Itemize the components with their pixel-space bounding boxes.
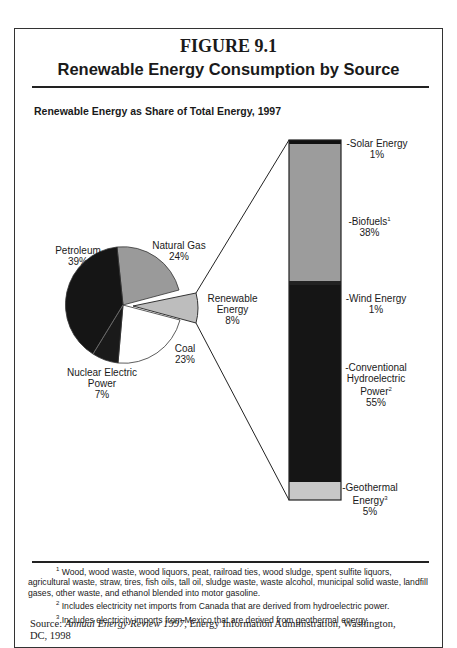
label-hydro: -ConventionalHydroelectricPower255% <box>342 362 410 408</box>
bar-hydro <box>289 285 341 482</box>
bar-geothermal <box>289 482 341 500</box>
label-geothermal: -GeothermalEnergy35% <box>340 482 400 517</box>
bar-biofuels <box>289 144 341 281</box>
bar-wind <box>289 281 341 285</box>
label-coal: Coal23% <box>165 343 205 365</box>
label-biofuels: -Biofuels138% <box>342 214 397 238</box>
label-wind: -Wind Energy1% <box>342 293 410 315</box>
label-solar: -Solar Energy1% <box>342 138 412 160</box>
label-nuclear: Nuclear ElectricPower7% <box>52 367 152 400</box>
footnote-2: 2 Includes electricity net imports from … <box>28 598 430 611</box>
footnote-1: 1 Wood, wood waste, wood liquors, peat, … <box>28 564 430 598</box>
footnotes: 1 Wood, wood waste, wood liquors, peat, … <box>28 564 430 625</box>
source-citation: Source: Annual Energy Review 1997, Energ… <box>30 618 410 642</box>
label-petroleum: Petroleum39% <box>48 245 108 267</box>
label-renewable: RenewableEnergy8% <box>200 293 265 326</box>
footnote-rule <box>32 561 429 563</box>
label-natural-gas: Natural Gas24% <box>144 240 214 262</box>
